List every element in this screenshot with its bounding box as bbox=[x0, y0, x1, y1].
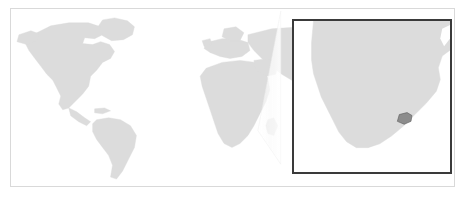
inset-map-panel[interactable] bbox=[292, 19, 452, 174]
locator-map-figure: lesotho bbox=[0, 0, 466, 197]
highlight-name: lesotho bbox=[0, 0, 1, 1]
inset-label bbox=[0, 0, 1, 1]
figure-title bbox=[0, 0, 1, 1]
inset-map bbox=[294, 21, 450, 172]
figure-frame bbox=[10, 8, 455, 187]
